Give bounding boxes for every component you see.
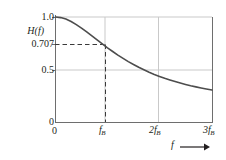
x-tick-3fb-sub: B — [210, 129, 214, 137]
x-tick-2fb-sub: B — [156, 129, 160, 137]
grid-lines — [55, 17, 212, 122]
figure-lowpass-response: 1.0 0.707 0.5 0 H(f) 0 fB 2fB 3fB f — [0, 0, 226, 160]
x-axis-title: f — [171, 140, 174, 150]
x-tick-label-2fb: 2fB — [149, 125, 161, 135]
y-tick-label-0.5: 0.5 — [42, 65, 55, 75]
cutoff-marker — [55, 45, 106, 123]
axes — [55, 15, 213, 123]
x-axis-arrow — [180, 144, 210, 151]
y-tick-label-1.0: 1.0 — [42, 12, 55, 22]
x-tick-label-fb: fB — [99, 125, 106, 135]
response-curve — [56, 17, 213, 90]
y-tick-label-0.707: 0.707 — [32, 39, 55, 49]
x-tick-label-0: 0 — [52, 126, 57, 136]
y-axis-title: H(f) — [27, 26, 44, 36]
x-tick-label-3fb: 3fB — [203, 125, 215, 135]
x-tick-fb-sub: B — [101, 129, 105, 137]
plot-canvas — [0, 0, 226, 160]
